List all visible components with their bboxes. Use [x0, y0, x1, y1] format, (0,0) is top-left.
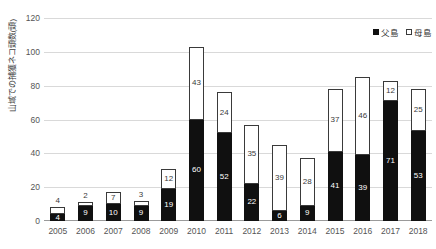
bar-segment-hahajima-2016[interactable]: 46 — [355, 77, 370, 155]
bar-segment-hahajima-2017[interactable]: 12 — [383, 81, 398, 101]
y-axis-tick-labels: 020406080100120 — [14, 0, 40, 249]
bar-label-chichijima-2008: 9 — [139, 209, 143, 217]
legend-item-hahajima[interactable]: 母島 — [406, 26, 432, 38]
x-axis-tick-2008: 2008 — [132, 226, 151, 236]
bar-label-hahajima-2013: 39 — [275, 174, 284, 182]
bar-segment-hahajima-2013[interactable]: 39 — [272, 145, 287, 211]
x-axis-tick-2015: 2015 — [326, 226, 345, 236]
bar-segment-chichijima-2009[interactable]: 19 — [161, 189, 176, 221]
bar-segment-chichijima-2017[interactable]: 71 — [383, 101, 398, 221]
bar-group-2010[interactable]: 4360 — [189, 47, 204, 221]
bar-group-2005[interactable]: 44 — [50, 207, 65, 221]
y-axis-tick-40: 40 — [31, 149, 40, 158]
bar-label-hahajima-2011: 24 — [220, 109, 229, 117]
bar-group-2013[interactable]: 396 — [272, 145, 287, 221]
bar-segment-chichijima-2005[interactable]: 4 — [50, 214, 65, 221]
bar-segment-hahajima-2011[interactable]: 24 — [217, 92, 232, 133]
x-axis-tick-2006: 2006 — [76, 226, 95, 236]
bar-label-chichijima-2013: 6 — [277, 212, 281, 220]
bar-label-chichijima-2012: 22 — [247, 198, 256, 206]
bar-segment-hahajima-2007[interactable]: 7 — [106, 192, 121, 204]
bar-label-hahajima-2006: 2 — [83, 192, 87, 200]
bar-group-2016[interactable]: 4639 — [355, 77, 370, 221]
legend-label-hahajima: 母島 — [414, 26, 432, 38]
bar-label-hahajima-2016: 46 — [358, 112, 367, 120]
stacked-bar-chart: 山域での捕獲ネコ頭数(頭) 020406080100120 4429710391… — [0, 0, 436, 249]
x-axis-tick-2017: 2017 — [381, 226, 400, 236]
legend: 父島 母島 — [373, 26, 432, 38]
bar-segment-chichijima-2007[interactable]: 10 — [106, 204, 121, 221]
bar-segment-chichijima-2010[interactable]: 60 — [189, 120, 204, 222]
black-square-icon — [373, 29, 379, 35]
bar-group-2007[interactable]: 710 — [106, 192, 121, 221]
bar-group-2017[interactable]: 1271 — [383, 81, 398, 221]
x-axis-tick-2014: 2014 — [298, 226, 317, 236]
bar-label-hahajima-2015: 37 — [331, 116, 340, 124]
bar-segment-hahajima-2014[interactable]: 28 — [300, 158, 315, 205]
bar-segment-chichijima-2011[interactable]: 52 — [217, 133, 232, 221]
bar-segment-hahajima-2018[interactable]: 25 — [411, 89, 426, 131]
bar-label-chichijima-2010: 60 — [192, 166, 201, 174]
bar-label-chichijima-2006: 9 — [83, 209, 87, 217]
x-axis-tick-2005: 2005 — [48, 226, 67, 236]
plot-area: 4429710391219436024523522396289374146391… — [44, 18, 432, 221]
bar-label-chichijima-2009: 19 — [164, 201, 173, 209]
x-axis-tick-2012: 2012 — [242, 226, 261, 236]
bar-group-2014[interactable]: 289 — [300, 158, 315, 221]
legend-label-chichijima: 父島 — [381, 26, 399, 38]
bar-segment-chichijima-2008[interactable]: 9 — [134, 206, 149, 221]
y-axis-tick-60: 60 — [31, 115, 40, 124]
bar-label-hahajima-2010: 43 — [192, 79, 201, 87]
bar-group-2008[interactable]: 39 — [134, 201, 149, 221]
bar-label-hahajima-2009: 12 — [164, 175, 173, 183]
x-axis-tick-2018: 2018 — [409, 226, 428, 236]
legend-item-chichijima[interactable]: 父島 — [373, 26, 399, 38]
y-axis-tick-100: 100 — [26, 48, 40, 57]
y-axis-tick-120: 120 — [26, 14, 40, 23]
bar-group-2015[interactable]: 3741 — [328, 89, 343, 221]
bar-segment-hahajima-2015[interactable]: 37 — [328, 89, 343, 152]
bar-label-hahajima-2017: 12 — [386, 87, 395, 95]
bar-label-chichijima-2017: 71 — [386, 157, 395, 165]
bar-group-2011[interactable]: 2452 — [217, 92, 232, 221]
bar-series-container: 4429710391219436024523522396289374146391… — [44, 18, 432, 221]
bar-label-chichijima-2005: 4 — [56, 214, 60, 222]
bar-segment-chichijima-2016[interactable]: 39 — [355, 155, 370, 221]
bar-label-hahajima-2007: 7 — [111, 194, 115, 202]
bar-label-chichijima-2015: 41 — [331, 182, 340, 190]
bar-label-hahajima-2012: 35 — [247, 150, 256, 158]
x-axis-tick-2011: 2011 — [215, 226, 233, 236]
x-axis-tick-2009: 2009 — [159, 226, 178, 236]
bar-label-hahajima-2005: 4 — [56, 197, 60, 205]
x-axis-tick-2016: 2016 — [353, 226, 372, 236]
bar-label-hahajima-2008: 3 — [139, 191, 143, 199]
x-axis-tick-2013: 2013 — [270, 226, 289, 236]
x-axis-tick-labels: 2005200620072008200920102011201220132014… — [44, 226, 432, 246]
bar-group-2006[interactable]: 29 — [78, 202, 93, 221]
bar-group-2012[interactable]: 3522 — [244, 125, 259, 221]
y-axis-tick-80: 80 — [31, 81, 40, 90]
bar-label-chichijima-2014: 9 — [305, 209, 309, 217]
bar-segment-chichijima-2015[interactable]: 41 — [328, 152, 343, 221]
bar-segment-hahajima-2012[interactable]: 35 — [244, 125, 259, 184]
bar-label-chichijima-2007: 10 — [109, 209, 118, 217]
bar-segment-chichijima-2006[interactable]: 9 — [78, 206, 93, 221]
bar-label-hahajima-2018: 25 — [414, 106, 423, 114]
bar-segment-chichijima-2018[interactable]: 53 — [411, 131, 426, 221]
bar-label-chichijima-2018: 53 — [414, 172, 423, 180]
bar-segment-chichijima-2012[interactable]: 22 — [244, 184, 259, 221]
y-axis-tick-0: 0 — [35, 217, 40, 226]
bar-segment-chichijima-2014[interactable]: 9 — [300, 206, 315, 221]
y-axis-tick-20: 20 — [31, 183, 40, 192]
bar-segment-hahajima-2009[interactable]: 12 — [161, 169, 176, 189]
bar-segment-chichijima-2013[interactable]: 6 — [272, 211, 287, 221]
bar-label-chichijima-2016: 39 — [358, 184, 367, 192]
x-axis-tick-2010: 2010 — [187, 226, 206, 236]
bar-group-2009[interactable]: 1219 — [161, 169, 176, 221]
bar-label-chichijima-2011: 52 — [220, 173, 229, 181]
x-axis-tick-2007: 2007 — [104, 226, 123, 236]
bar-group-2018[interactable]: 2553 — [411, 89, 426, 221]
bar-segment-hahajima-2010[interactable]: 43 — [189, 47, 204, 120]
bar-label-hahajima-2014: 28 — [303, 178, 312, 186]
white-square-icon — [406, 29, 412, 35]
